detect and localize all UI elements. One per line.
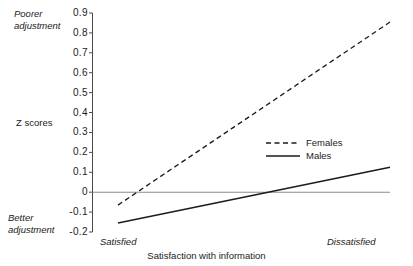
- legend-swatch-solid-icon: [266, 151, 300, 161]
- x-axis-tick-label-left: Satisfied: [100, 236, 136, 247]
- x-axis-tick-label-right: Dissatisfied: [327, 236, 376, 247]
- legend-item-males: Males: [266, 149, 342, 162]
- legend-label-females: Females: [306, 138, 342, 148]
- legend-item-females: Females: [266, 136, 342, 149]
- chart-figure: Poorer adjustment Z scores Better adjust…: [0, 0, 413, 266]
- legend-label-males: Males: [306, 151, 331, 161]
- series-line-males: [118, 167, 390, 223]
- plot-canvas: [0, 0, 413, 266]
- series-line-females: [118, 22, 390, 205]
- x-axis-title: Satisfaction with information: [0, 250, 413, 261]
- legend-swatch-dashed-icon: [266, 138, 300, 148]
- legend: Females Males: [266, 136, 342, 162]
- y-axis-ticks: [89, 13, 93, 232]
